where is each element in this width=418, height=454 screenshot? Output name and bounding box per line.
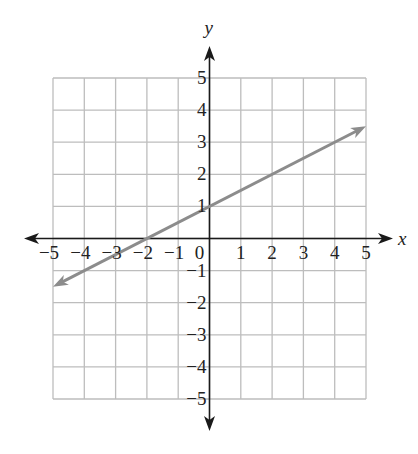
y-tick-label: 1 bbox=[197, 195, 207, 216]
y-tick-label: −3 bbox=[186, 324, 206, 345]
x-tick-label: −5 bbox=[39, 242, 59, 263]
x-tick-label: 1 bbox=[236, 242, 246, 263]
x-tick-label: 3 bbox=[299, 242, 309, 263]
x-tick-label: −1 bbox=[164, 242, 184, 263]
coordinate-plane: −5−4−3−2−1012345−5−4−3−2−112345 x y bbox=[0, 0, 418, 454]
y-tick-label: 3 bbox=[197, 131, 207, 152]
y-tick-label: −4 bbox=[186, 356, 207, 377]
y-tick-label: 4 bbox=[197, 99, 207, 120]
y-tick-label: 2 bbox=[197, 163, 207, 184]
x-tick-label: 4 bbox=[330, 242, 340, 263]
axes bbox=[24, 46, 393, 431]
x-tick-label: 2 bbox=[267, 242, 277, 263]
y-axis-label: y bbox=[203, 17, 214, 38]
y-tick-label: −2 bbox=[186, 292, 206, 313]
y-tick-label: 5 bbox=[197, 67, 207, 88]
x-tick-label: 5 bbox=[361, 242, 371, 263]
x-tick-label: −2 bbox=[133, 242, 153, 263]
x-tick-label: −4 bbox=[70, 242, 91, 263]
x-tick-label: −3 bbox=[101, 242, 121, 263]
y-tick-label: −5 bbox=[186, 388, 206, 409]
x-axis-label: x bbox=[397, 228, 407, 249]
y-tick-label: −1 bbox=[186, 260, 206, 281]
